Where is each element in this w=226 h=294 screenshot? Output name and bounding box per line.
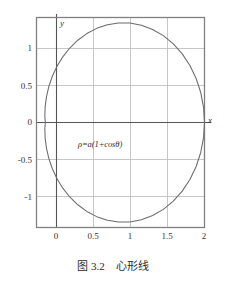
equation-annotation: ρ=a(1+cosθ) [78, 139, 122, 149]
plot-area: 0 0.5 1 1.5 2 1 0.5 0 -0.5 -1 y x ρ=a(1+… [0, 0, 226, 250]
y-tick-label-0.5: 0.5 [12, 82, 32, 91]
y-tick-label-neg1: -1 [14, 193, 32, 202]
cardioid-plot-svg [0, 0, 226, 250]
x-tick-label-2: 2 [202, 232, 207, 241]
figure-cardioid: 0 0.5 1 1.5 2 1 0.5 0 -0.5 -1 y x ρ=a(1+… [0, 0, 226, 294]
y-axis-label: y [60, 19, 64, 28]
x-tick-label-0: 0 [54, 232, 59, 241]
x-axis-label: x [208, 116, 212, 125]
x-tick-label-0.5: 0.5 [87, 232, 98, 241]
y-tick-label-neg0.5: -0.5 [8, 156, 32, 165]
x-tick-label-1: 1 [128, 232, 133, 241]
y-tick-label-0: 0 [18, 118, 32, 127]
x-tick-label-1.5: 1.5 [161, 232, 172, 241]
figure-caption: 图 3.2 心形线 [0, 260, 226, 273]
y-tick-label-1: 1 [18, 44, 32, 53]
